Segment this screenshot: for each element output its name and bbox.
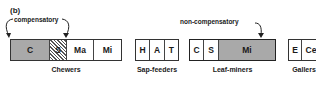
compensatory-label: compensatory xyxy=(14,16,58,23)
cell-leaf-s: S xyxy=(204,40,219,60)
cell-leaf-c: C xyxy=(190,40,204,60)
non-compensatory-arrow-icon xyxy=(250,18,270,40)
cell-gallers-e: E xyxy=(289,40,302,60)
leaf-miners-box: C S Mi xyxy=(189,39,276,61)
cell-sap-a: A xyxy=(150,40,164,60)
sap-feeders-box: H A T xyxy=(135,39,179,61)
non-compensatory-label: non-compensatory xyxy=(180,18,239,25)
cell-chewers-s: S xyxy=(50,40,67,60)
sap-feeders-label: Sap-feeders xyxy=(127,66,187,73)
cell-gallers-ce: Ce xyxy=(302,40,316,60)
gallers-box: E Ce xyxy=(288,39,316,61)
chewers-box: C S Ma Mi xyxy=(10,39,122,61)
leaf-miners-label: Leaf-miners xyxy=(189,66,276,73)
cell-leaf-mi: Mi xyxy=(219,40,275,60)
cell-chewers-ma: Ma xyxy=(67,40,94,60)
cell-sap-h: H xyxy=(136,40,150,60)
cell-chewers-c: C xyxy=(11,40,50,60)
gallers-label: Gallers xyxy=(282,66,316,73)
chewers-label: Chewers xyxy=(10,66,122,73)
cell-chewers-mi: Mi xyxy=(94,40,121,60)
cell-sap-t: T xyxy=(165,40,178,60)
